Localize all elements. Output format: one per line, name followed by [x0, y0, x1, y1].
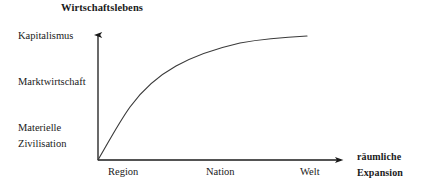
y-axis-label-marktwirtschaft: Marktwirtschaft [18, 76, 86, 88]
x-axis-title-line2: Expansion [357, 167, 403, 178]
x-axis-label-nation: Nation [206, 166, 235, 178]
y-axis-label-zivilisation: Zivilisation [18, 138, 66, 150]
x-axis-label-welt: Welt [300, 166, 320, 178]
plot-area [0, 0, 429, 192]
chart-figure: Wirtschaftslebens Kapitalismus Marktwirt… [0, 0, 429, 192]
y-axis-label-kapitalismus: Kapitalismus [18, 30, 73, 42]
x-axis-label-region: Region [108, 166, 138, 178]
growth-curve [98, 36, 307, 160]
x-axis-title-line1: räumliche [357, 151, 401, 162]
y-axis-label-materielle: Materielle [18, 122, 61, 134]
